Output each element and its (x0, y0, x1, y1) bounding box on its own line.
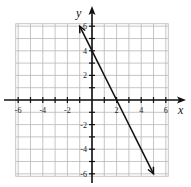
x-tick-label: -4 (39, 106, 46, 115)
y-tick-label: -6 (80, 170, 87, 179)
y-tick-label: 4 (83, 47, 87, 56)
x-tick-label: 2 (115, 106, 119, 115)
x-tick-label: 4 (139, 106, 143, 115)
x-tick-label: 6 (164, 106, 168, 115)
x-tick-label: -2 (64, 106, 71, 115)
x-axis-label: x (177, 103, 184, 117)
x-tick-label: -6 (15, 106, 22, 115)
y-axis-label: y (75, 6, 82, 20)
y-tick-label: -2 (80, 121, 87, 130)
y-tick-label: -4 (80, 145, 87, 154)
coordinate-plane: -6-4-2246642-2-4-6 x y (0, 0, 191, 187)
axes (4, 6, 186, 183)
y-tick-label: 2 (83, 71, 87, 80)
